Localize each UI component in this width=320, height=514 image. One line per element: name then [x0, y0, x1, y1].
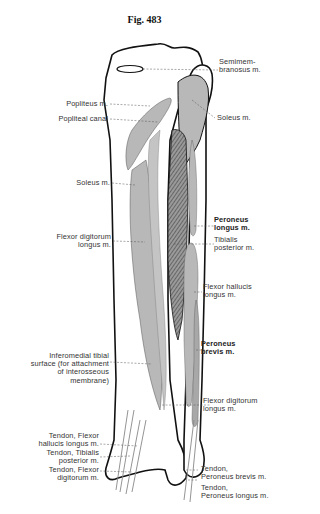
label-soleus-left: Soleus m. [76, 179, 110, 187]
label-peroneus-longus: Peroneus longus m. [214, 216, 250, 232]
label-tendon-pb: Tendon, Peroneus brevis m. [201, 465, 266, 481]
label-flexor-digitorum-lower: Flexor digitorum longus m. [203, 397, 258, 413]
label-popliteus: Popliteus m. [66, 100, 108, 108]
label-soleus-right: Soleus m. [217, 114, 251, 122]
label-flexor-hallucis: Flexor hallucis longus m. [203, 283, 252, 299]
label-flexor-digitorum-upper: Flexor digitorum longus m. [56, 233, 111, 249]
label-inferomedial: Inferomedial tibial surface (for attachm… [31, 352, 109, 385]
label-popliteal-canal: Popliteal canal [58, 115, 108, 123]
label-peroneus-brevis: Peroneus brevis m. [201, 340, 235, 356]
proximal-oval [117, 66, 143, 73]
label-tibialis-posterior: Tibialis posterior m. [214, 236, 254, 252]
label-tendon-fhl: Tendon, Flexor hallucis longus m. [38, 432, 99, 448]
label-tendon-pl: Tendon, Peroneus longus m. [201, 484, 269, 500]
label-semimembranosus: Semimem- branosus m. [219, 58, 261, 74]
label-tendon-tp: Tendon, Tibialis posterior m. [46, 449, 99, 465]
label-tendon-fdl: Tendon, Flexor digitorum m. [49, 466, 99, 482]
